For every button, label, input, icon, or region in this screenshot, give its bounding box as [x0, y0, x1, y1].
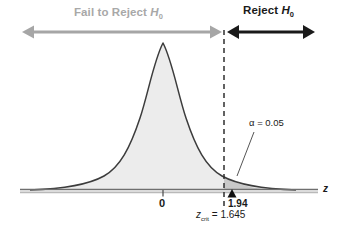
normal-curve-plot — [0, 0, 337, 231]
alpha-annotation: α = 0.05 — [249, 117, 284, 128]
null-hypothesis-symbol-left: H0 — [150, 6, 163, 18]
reject-text: Reject — [243, 4, 281, 16]
null-hypothesis-symbol-right: H0 — [281, 4, 294, 16]
fail-to-reject-label: Fail to Reject H0 — [74, 6, 163, 21]
x-axis — [20, 190, 318, 193]
fail-to-reject-text: Fail to Reject — [74, 6, 150, 18]
reject-label: Reject H0 — [243, 4, 294, 19]
reject-arrow — [227, 25, 315, 39]
test-statistic-label: 1.94 — [228, 198, 247, 209]
critical-value-equation: = 1.645 — [209, 209, 245, 220]
critical-value-subscript: crit — [201, 216, 209, 222]
critical-value-label: zcrit = 1.645 — [196, 209, 245, 222]
alpha-leader-line — [237, 132, 254, 176]
origin-tick-label: 0 — [159, 197, 165, 209]
fail-to-reject-arrow — [22, 26, 222, 39]
figure-canvas: Fail to Reject H0 Reject H0 α = 0.05 0 1… — [0, 0, 337, 231]
x-axis-label: z — [323, 183, 328, 194]
